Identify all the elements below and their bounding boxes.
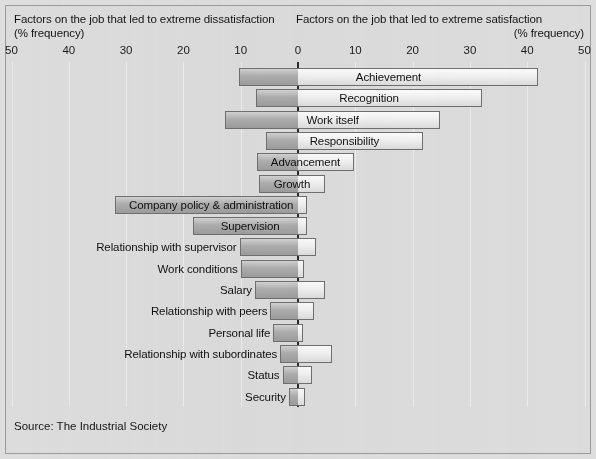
- bar-row: Relationship with subordinates: [0, 345, 596, 366]
- bar-category-label: Advancement: [257, 154, 354, 171]
- bar-row: Status: [0, 366, 596, 387]
- bar-dissatisfaction: [280, 345, 298, 363]
- left-heading-title: Factors on the job that led to extreme d…: [14, 13, 275, 25]
- x-tick-label-0-zero: 0: [295, 44, 301, 56]
- bar-category-label: Relationship with peers: [10, 303, 267, 320]
- x-tick-label-50-left: 50: [5, 44, 18, 56]
- x-tick-label-30-left: 30: [120, 44, 133, 56]
- bar-dissatisfaction: [283, 366, 298, 384]
- bar-satisfaction: [298, 366, 312, 384]
- bar-satisfaction: [298, 324, 303, 342]
- bar-category-label: Status: [10, 367, 280, 384]
- right-heading-title: Factors on the job that led to extreme s…: [296, 13, 542, 25]
- bar-category-label: Recognition: [256, 90, 482, 107]
- x-tick-label-40-right: 40: [521, 44, 534, 56]
- x-tick-label-50-right: 50: [578, 44, 591, 56]
- bar-satisfaction: [298, 260, 304, 278]
- bar-category-label: Work itself: [225, 112, 440, 129]
- chart-page: Factors on the job that led to extreme d…: [0, 0, 596, 459]
- bar-row: Advancement: [0, 153, 596, 174]
- bar-satisfaction: [298, 302, 314, 320]
- bar-satisfaction: [298, 388, 305, 406]
- x-tick-label-20-left: 20: [177, 44, 190, 56]
- bar-category-label: Responsibility: [266, 133, 423, 150]
- bar-row: Achievement: [0, 68, 596, 89]
- right-heading: Factors on the job that led to extreme s…: [296, 12, 584, 40]
- bar-category-label: Company policy & administration: [115, 197, 307, 214]
- bar-category-label: Security: [10, 389, 286, 406]
- bar-row: Work itself: [0, 111, 596, 132]
- bar-category-label: Relationship with subordinates: [10, 346, 277, 363]
- bar-row: Salary: [0, 281, 596, 302]
- bar-row: Company policy & administration: [0, 196, 596, 217]
- right-heading-subtitle: (% frequency): [296, 26, 584, 40]
- bar-category-label: Supervision: [193, 218, 307, 235]
- bar-satisfaction: [298, 345, 332, 363]
- bar-row: Relationship with supervisor: [0, 238, 596, 259]
- bar-row: Supervision: [0, 217, 596, 238]
- bar-satisfaction: [298, 281, 325, 299]
- left-heading-subtitle: (% frequency): [14, 26, 314, 40]
- bar-row: Relationship with peers: [0, 302, 596, 323]
- bar-row: Personal life: [0, 324, 596, 345]
- x-tick-label-10-right: 10: [349, 44, 362, 56]
- bar-dissatisfaction: [273, 324, 298, 342]
- bar-category-label: Personal life: [10, 325, 270, 342]
- bar-row: Work conditions: [0, 260, 596, 281]
- bar-dissatisfaction: [270, 302, 298, 320]
- x-tick-label-30-right: 30: [463, 44, 476, 56]
- bar-category-label: Growth: [259, 176, 325, 193]
- x-tick-label-40-left: 40: [62, 44, 75, 56]
- bar-row: Recognition: [0, 89, 596, 110]
- bar-satisfaction: [298, 238, 316, 256]
- bar-dissatisfaction: [240, 238, 298, 256]
- bar-dissatisfaction: [289, 388, 298, 406]
- plot-area: AchievementRecognitionWork itselfRespons…: [0, 62, 596, 407]
- bar-category-label: Work conditions: [10, 261, 238, 278]
- x-tick-label-20-right: 20: [406, 44, 419, 56]
- source-note: Source: The Industrial Society: [14, 420, 167, 432]
- bar-row: Growth: [0, 175, 596, 196]
- x-tick-label-10-left: 10: [234, 44, 247, 56]
- left-heading: Factors on the job that led to extreme d…: [14, 12, 314, 40]
- bar-category-label: Salary: [10, 282, 252, 299]
- bar-dissatisfaction: [255, 281, 298, 299]
- bar-row: Responsibility: [0, 132, 596, 153]
- bar-category-label: Relationship with supervisor: [10, 239, 237, 256]
- bar-category-label: Achievement: [239, 69, 538, 86]
- x-axis-tick-labels: 504030201001020304050: [0, 44, 596, 60]
- bar-dissatisfaction: [241, 260, 298, 278]
- bar-row: Security: [0, 388, 596, 409]
